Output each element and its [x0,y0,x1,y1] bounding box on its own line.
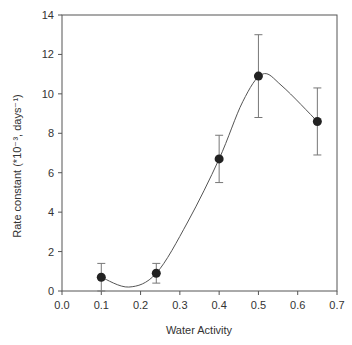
data-point-marker [97,273,106,282]
fit-curve-path [101,74,317,288]
x-tick-label: 0.7 [329,299,344,311]
x-tick-label: 0.1 [94,299,109,311]
x-tick-label: 0.2 [133,299,148,311]
y-tick-label: 12 [42,48,54,60]
y-tick-label: 4 [48,206,54,218]
data-point-marker [313,117,322,126]
error-bars [97,35,321,291]
y-axis-label: Rate constant (*10⁻³, days⁻¹) [11,94,23,237]
x-tick-label: 0.4 [211,299,226,311]
axis-ticks: 0.00.10.20.30.40.50.60.702468101214 [42,9,345,311]
fit-curve [101,74,317,288]
y-tick-label: 0 [48,285,54,297]
y-tick-label: 8 [48,127,54,139]
x-axis-label: Water Activity [166,324,233,336]
y-tick-label: 6 [48,167,54,179]
x-tick-label: 0.6 [290,299,305,311]
data-point-marker [215,154,224,163]
plot-axes [62,15,337,291]
data-point-marker [152,269,161,278]
plot-frame [62,15,337,291]
chart: 0.00.10.20.30.40.50.60.702468101214 Wate… [0,0,352,345]
data-points [97,72,322,282]
y-tick-label: 2 [48,246,54,258]
y-tick-label: 14 [42,9,54,21]
x-tick-label: 0.0 [54,299,69,311]
x-tick-label: 0.5 [251,299,266,311]
x-tick-label: 0.3 [172,299,187,311]
y-tick-label: 10 [42,88,54,100]
data-point-marker [254,72,263,81]
